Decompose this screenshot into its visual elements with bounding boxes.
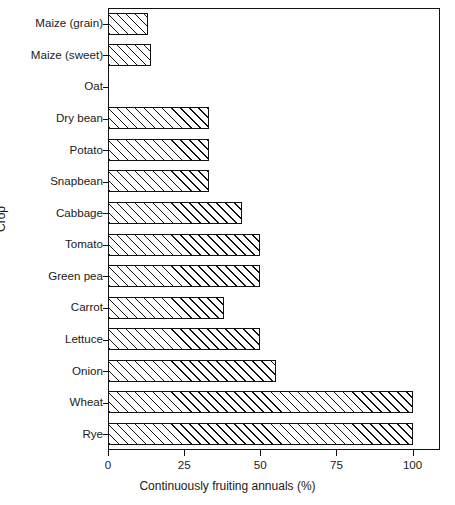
y-axis-label-wheat: Wheat bbox=[0, 396, 103, 408]
x-axis-tick-label: 0 bbox=[78, 458, 138, 471]
bar-row bbox=[108, 134, 440, 165]
x-axis-tick bbox=[184, 450, 185, 456]
y-axis-label-potato: Potato bbox=[0, 144, 103, 156]
bar-row bbox=[108, 418, 440, 449]
bar-row bbox=[108, 355, 440, 386]
x-axis-tick bbox=[260, 450, 261, 456]
bar-row bbox=[108, 387, 440, 418]
y-axis-label-carrot: Carrot bbox=[0, 301, 103, 313]
bars-layer bbox=[108, 8, 440, 450]
bar bbox=[108, 297, 224, 319]
y-axis-label-rye: Rye bbox=[0, 428, 103, 440]
x-axis-tick-label: 25 bbox=[154, 458, 214, 471]
bar bbox=[108, 391, 413, 413]
bar-row bbox=[108, 261, 440, 292]
x-axis-ticks: 0255075100 bbox=[108, 450, 440, 480]
bar bbox=[108, 202, 242, 224]
y-axis-label-cabbage: Cabbage bbox=[0, 207, 103, 219]
bar bbox=[108, 107, 209, 129]
y-axis-label-onion: Onion bbox=[0, 365, 103, 377]
bar-row bbox=[108, 8, 440, 39]
y-axis-label-maize-sweet: Maize (sweet) bbox=[0, 49, 103, 61]
x-axis-tick bbox=[336, 450, 337, 456]
bar-row bbox=[108, 229, 440, 260]
bar-row bbox=[108, 197, 440, 228]
bar bbox=[108, 265, 260, 287]
x-axis-tick-label: 100 bbox=[383, 458, 443, 471]
bar-row bbox=[108, 40, 440, 71]
x-axis-title: Continuously fruiting annuals (%) bbox=[0, 479, 455, 493]
bar bbox=[108, 139, 209, 161]
y-axis-title: Crop bbox=[0, 206, 8, 232]
bar bbox=[108, 328, 260, 350]
y-axis-label-tomato: Tomato bbox=[0, 238, 103, 250]
bar bbox=[108, 13, 148, 35]
bar bbox=[108, 423, 413, 445]
bar bbox=[108, 170, 209, 192]
y-axis-label-maize-grain: Maize (grain) bbox=[0, 17, 103, 29]
y-axis-label-dry-bean: Dry bean bbox=[0, 112, 103, 124]
x-axis-tick bbox=[413, 450, 414, 456]
bar-row bbox=[108, 292, 440, 323]
y-axis-label-green-pea: Green pea bbox=[0, 270, 103, 282]
bar-chart: Maize (grain)Maize (sweet)OatDry beanPot… bbox=[0, 0, 455, 505]
bar-row bbox=[108, 166, 440, 197]
y-axis-label-lettuce: Lettuce bbox=[0, 333, 103, 345]
y-axis-category-labels: Maize (grain)Maize (sweet)OatDry beanPot… bbox=[0, 8, 103, 450]
x-axis-tick-label: 50 bbox=[230, 458, 290, 471]
y-axis-label-oat: Oat bbox=[0, 80, 103, 92]
bar bbox=[108, 360, 276, 382]
bar bbox=[108, 234, 260, 256]
x-axis-tick-label: 75 bbox=[306, 458, 366, 471]
bar-row bbox=[108, 103, 440, 134]
bar-row bbox=[108, 71, 440, 102]
x-axis-tick bbox=[108, 450, 109, 456]
bar bbox=[108, 44, 151, 66]
bar-row bbox=[108, 324, 440, 355]
y-axis-label-snapbean: Snapbean bbox=[0, 175, 103, 187]
